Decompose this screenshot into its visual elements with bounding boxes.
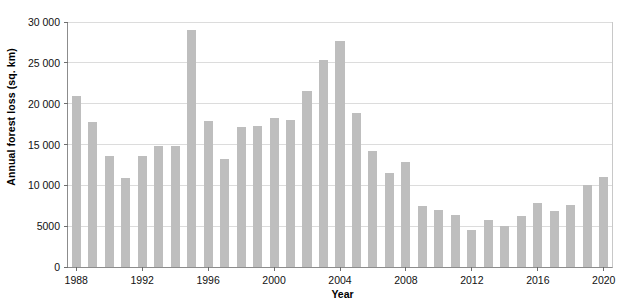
y-axis-tick-label: 20 000: [28, 98, 60, 110]
x-axis-tick-mark: [537, 267, 538, 271]
y-axis-tick-label: 10 000: [28, 179, 60, 191]
bar: [368, 151, 377, 267]
bar: [401, 162, 410, 267]
bar: [385, 173, 394, 267]
bar: [270, 118, 279, 267]
x-axis-title: Year: [0, 288, 635, 300]
bar: [434, 210, 443, 267]
bar: [171, 146, 180, 267]
x-axis-tick-label: 2004: [328, 274, 351, 286]
bar: [72, 96, 81, 267]
x-axis-tick-label: 2008: [394, 274, 417, 286]
bar: [220, 159, 229, 267]
bar: [352, 113, 361, 267]
x-axis-tick-label: 2020: [592, 274, 615, 286]
x-axis-tick-mark: [274, 267, 275, 271]
x-axis-tick-mark: [142, 267, 143, 271]
bar: [335, 41, 344, 267]
bar: [533, 203, 542, 267]
y-axis-title: Annual forest loss (sq. km): [0, 0, 22, 270]
bar: [187, 30, 196, 267]
y-axis-tick-label: 30 000: [28, 16, 60, 28]
bar: [253, 126, 262, 267]
x-axis-tick-mark: [405, 267, 406, 271]
bar: [550, 211, 559, 267]
bar: [599, 177, 608, 267]
bar: [138, 156, 147, 267]
bar: [237, 127, 246, 267]
bar: [566, 205, 575, 267]
y-axis-tick-label: 0: [54, 261, 60, 273]
bar: [500, 226, 509, 267]
x-axis-tick-label: 1992: [130, 274, 153, 286]
x-axis-tick-label: 1988: [65, 274, 88, 286]
bar: [467, 230, 476, 267]
x-axis-tick-mark: [76, 267, 77, 271]
bar: [302, 91, 311, 267]
x-axis-tick-mark: [471, 267, 472, 271]
bar: [88, 122, 97, 267]
bar: [583, 185, 592, 267]
bar: [121, 178, 130, 267]
y-axis-tick-label: 15 000: [28, 139, 60, 151]
x-axis-tick-mark: [208, 267, 209, 271]
x-axis-tick-mark: [603, 267, 604, 271]
forest-loss-bar-chart: Annual forest loss (sq. km) 0500010 0001…: [0, 0, 635, 306]
bar: [484, 220, 493, 267]
bar: [204, 121, 213, 267]
x-axis-tick-label: 1996: [196, 274, 219, 286]
bar: [319, 60, 328, 267]
x-axis-tick-label: 2016: [526, 274, 549, 286]
x-axis-tick-label: 2000: [262, 274, 285, 286]
bar: [517, 216, 526, 267]
bar: [154, 146, 163, 267]
bar: [451, 215, 460, 267]
bar: [418, 206, 427, 267]
bar: [105, 156, 114, 267]
x-axis-tick-mark: [340, 267, 341, 271]
bars-layer: [68, 22, 612, 267]
bar: [286, 120, 295, 267]
plot-area: 0500010 00015 00020 00025 00030 000 1988…: [67, 22, 613, 268]
x-axis-tick-label: 2012: [460, 274, 483, 286]
y-axis-tick-label: 5000: [37, 220, 60, 232]
y-axis-tick-label: 25 000: [28, 57, 60, 69]
